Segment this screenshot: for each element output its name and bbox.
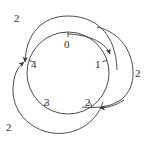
tick-node-1: [102, 60, 107, 62]
arc-inner-hook-top: [68, 34, 110, 54]
node-label-3: 3: [44, 97, 50, 108]
cyclic-group-diagram: 0 1 2 3 4 2 2 2: [0, 0, 151, 147]
arc-label-right: 2: [135, 68, 141, 79]
node-label-1: 1: [95, 59, 101, 70]
arc-label-bottom-left: 2: [6, 122, 12, 133]
diagram-canvas: [0, 0, 151, 147]
node-label-4: 4: [31, 59, 37, 70]
node-label-2: 2: [85, 97, 91, 108]
arc-label-top-left: 2: [14, 13, 20, 24]
node-label-0: 0: [64, 39, 70, 50]
